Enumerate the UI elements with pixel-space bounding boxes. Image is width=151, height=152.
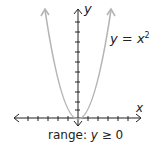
function-lhs: y <box>110 31 118 46</box>
x-axis-label: x <box>136 102 143 114</box>
range-caption: range: y ≥ 0 <box>48 129 123 141</box>
caption-var: y <box>91 128 98 142</box>
caption-prefix: range: <box>48 128 91 142</box>
function-label: y = x2 <box>110 32 150 45</box>
function-rhs-exp: 2 <box>145 31 150 40</box>
function-eq: = <box>118 31 137 46</box>
y-axis-label: y <box>84 2 92 15</box>
y-axis <box>74 9 82 126</box>
function-rhs-base: x <box>137 31 145 46</box>
caption-rest: ≥ 0 <box>98 128 123 142</box>
